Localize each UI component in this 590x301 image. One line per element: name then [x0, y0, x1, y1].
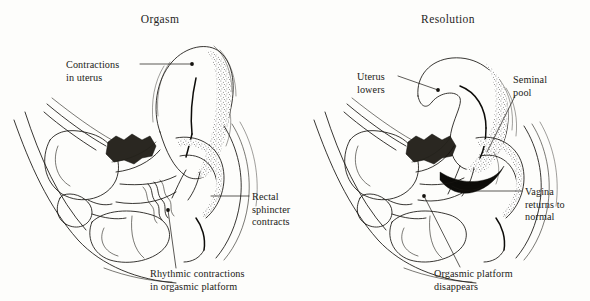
- leader-endpoint-rhythmic-contractions: [166, 208, 170, 212]
- label-line: Rhythmic contractions: [150, 268, 245, 279]
- label-text-rhythmic-contractions: Rhythmic contractions in orgasmic platfo…: [150, 268, 247, 292]
- label-line: Rectal: [252, 191, 279, 202]
- label-line: Uterus: [357, 71, 385, 82]
- sexual-response-cycle-figure: Orgasm Contractions in uterus Rectal sph…: [0, 0, 590, 301]
- label-line: contracts: [252, 216, 290, 227]
- leader-endpoint-uterus-lowers: [436, 88, 440, 92]
- label-text-uterus-lowers: Uterus lowers: [357, 71, 387, 95]
- label-line: Seminal: [513, 74, 547, 85]
- label-line: Orgasmic platform: [434, 268, 513, 279]
- label-line: sphincter: [252, 204, 291, 215]
- panel-title-resolution: Resolution: [421, 13, 475, 25]
- label-line: normal: [525, 211, 555, 222]
- label-line: disappears: [434, 281, 478, 292]
- label-line: returns to: [525, 199, 565, 210]
- label-line: lowers: [357, 84, 385, 95]
- label-line: in orgasmic platform: [150, 281, 237, 292]
- figure-background: [0, 0, 590, 301]
- label-line: in uterus: [66, 72, 102, 83]
- leader-endpoint-contractions-in-uterus: [190, 62, 194, 66]
- label-line: Vagina: [525, 186, 554, 197]
- label-line: Contractions: [66, 59, 119, 70]
- panel-title-orgasm: Orgasm: [141, 13, 180, 26]
- label-line: pool: [513, 87, 532, 98]
- leader-endpoint-orgasmic-platform-disappears: [422, 194, 426, 198]
